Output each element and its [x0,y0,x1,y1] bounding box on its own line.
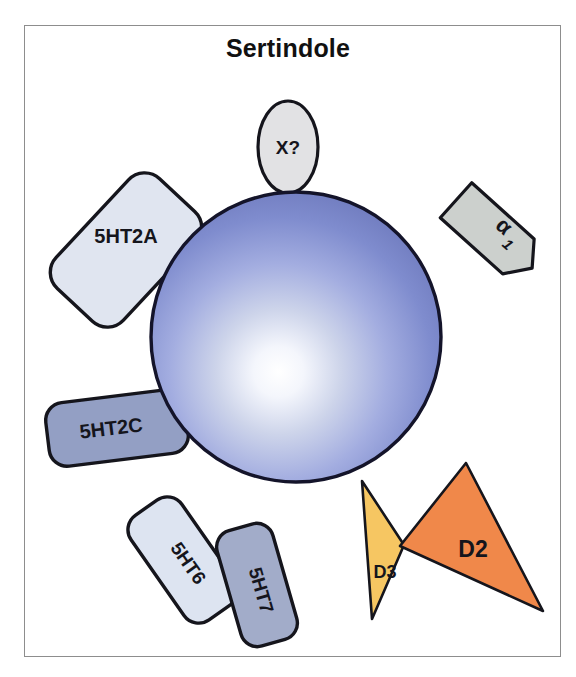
receptor-affinity-diagram: X? 5HT2A α 1 5HT2C 5HT6 5HT7 D3 D2 [0,0,576,677]
receptor-label-d2: D2 [458,536,487,562]
receptor-label-5ht2a: 5HT2A [94,225,157,247]
central-drug-sphere-shape[interactable] [151,192,441,482]
receptor-label-d3: D3 [373,562,396,582]
receptor-d3-shape[interactable] [362,481,404,619]
figure-root: Sertindole [0,0,576,677]
receptor-alpha1[interactable] [440,183,547,286]
receptor-d3[interactable] [362,481,404,619]
central-drug-sphere[interactable] [151,192,441,482]
receptor-alpha1-shape[interactable] [440,183,547,286]
receptor-label-x-unknown: X? [276,137,300,158]
